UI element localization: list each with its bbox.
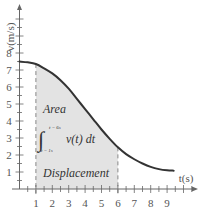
integral-upper-bound: t = 6s xyxy=(49,125,61,130)
area-label: Area xyxy=(42,102,66,116)
x-tick-label: 9 xyxy=(164,197,170,209)
x-tick-label: 6 xyxy=(115,197,121,209)
x-axis-label: t(s) xyxy=(179,172,194,185)
y-tick-label: 1 xyxy=(6,166,12,178)
x-tick-label: 4 xyxy=(82,197,88,209)
x-tick-label: 1 xyxy=(33,197,39,209)
x-tick-label: 2 xyxy=(50,197,56,209)
y-tick-label: 5 xyxy=(6,98,12,110)
displacement-label: Displacement xyxy=(42,166,110,180)
x-tick-label: 3 xyxy=(66,197,72,209)
integral-lower-bound: t = 1s xyxy=(41,148,53,153)
velocity-time-chart: 12345678123456789 v(m/s) t(s) Area ∫ t =… xyxy=(0,0,203,210)
x-tick-label: 7 xyxy=(132,197,138,209)
x-tick-label: 8 xyxy=(148,197,154,209)
integral-integrand: v(t) dt xyxy=(66,132,96,146)
y-tick-label: 6 xyxy=(6,81,12,93)
y-tick-label: 4 xyxy=(6,115,12,127)
y-tick-label: 2 xyxy=(6,149,12,161)
y-tick-label: 7 xyxy=(6,64,12,76)
x-tick-label: 5 xyxy=(99,197,105,209)
y-tick-label: 3 xyxy=(6,132,12,144)
y-axis-label: v(m/s) xyxy=(4,22,17,51)
